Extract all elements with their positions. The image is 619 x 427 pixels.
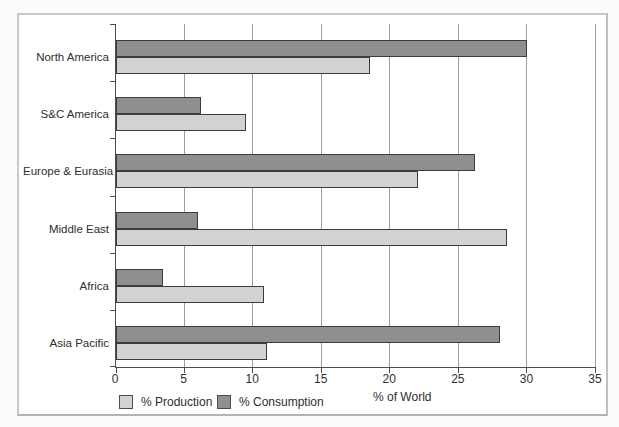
consumption-bar-2 xyxy=(116,154,475,171)
category-label-2: Europe & Eurasia xyxy=(23,163,109,179)
category-label-3: Middle East xyxy=(23,221,109,237)
x-axis-tick-label-20: 20 xyxy=(372,372,406,386)
y-axis-tick xyxy=(110,138,116,139)
category-label-1: S&C America xyxy=(23,106,109,122)
consumption-bar-3 xyxy=(116,212,198,229)
gridline-10 xyxy=(252,24,253,367)
y-axis-tick xyxy=(110,24,116,25)
category-label-0: North America xyxy=(23,49,109,65)
x-axis-title: % of World xyxy=(373,390,431,404)
x-axis-tick-label-30: 30 xyxy=(509,372,543,386)
legend-consumption-swatch xyxy=(217,395,231,409)
y-axis-tick xyxy=(110,366,116,367)
y-axis-tick xyxy=(110,253,116,254)
y-axis-tick xyxy=(110,310,116,311)
legend-production-swatch xyxy=(119,395,133,409)
legend-production-label: % Production xyxy=(141,395,212,409)
production-bar-1 xyxy=(116,114,246,131)
production-bar-0 xyxy=(116,57,370,74)
x-axis-tick-label-35: 35 xyxy=(578,372,612,386)
gridline-5 xyxy=(184,24,185,367)
gridline-25 xyxy=(458,24,459,367)
x-axis-tick-label-25: 25 xyxy=(441,372,475,386)
production-bar-5 xyxy=(116,343,267,360)
consumption-bar-4 xyxy=(116,269,163,286)
gridline-20 xyxy=(389,24,390,367)
category-label-5: Asia Pacific xyxy=(23,335,109,351)
x-axis-tick-label-15: 15 xyxy=(304,372,338,386)
consumption-bar-0 xyxy=(116,40,527,57)
x-axis-tick-label-5: 5 xyxy=(167,372,201,386)
legend-consumption-label: % Consumption xyxy=(239,395,324,409)
chart-frame: % Production % Consumption % of World 05… xyxy=(17,13,608,416)
production-bar-2 xyxy=(116,171,418,188)
gridline-35 xyxy=(595,24,596,367)
gridline-30 xyxy=(526,24,527,367)
x-axis-tick-label-0: 0 xyxy=(98,372,132,386)
consumption-bar-1 xyxy=(116,97,201,114)
production-bar-4 xyxy=(116,286,264,303)
x-axis-tick-label-10: 10 xyxy=(235,372,269,386)
y-axis-tick xyxy=(110,81,116,82)
consumption-bar-5 xyxy=(116,326,500,343)
gridline-15 xyxy=(321,24,322,367)
production-bar-3 xyxy=(116,229,507,246)
category-label-4: Africa xyxy=(23,278,109,294)
plot-area xyxy=(115,24,596,368)
y-axis-tick xyxy=(110,196,116,197)
